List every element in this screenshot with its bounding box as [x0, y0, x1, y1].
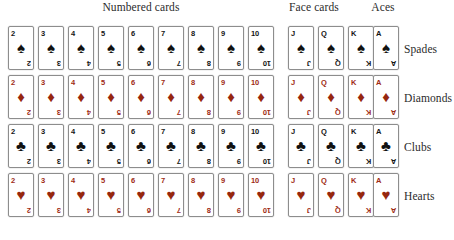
card-10-of-clubs[interactable]: 10♣10: [248, 124, 274, 168]
card-2-of-spades[interactable]: 2♠2: [8, 26, 34, 70]
card-5-of-clubs[interactable]: 5♣5: [98, 124, 124, 168]
card-9-of-diamonds[interactable]: 9♦9: [218, 75, 244, 119]
card-5-of-spades[interactable]: 5♠5: [98, 26, 124, 70]
card-rank-bottom-right: 4: [87, 108, 91, 116]
club-suit-icon: ♣: [226, 139, 236, 154]
club-suit-icon: ♣: [296, 139, 306, 154]
card-9-of-spades[interactable]: 9♠9: [218, 26, 244, 70]
suit-row-clubs: 2♣23♣34♣45♣56♣67♣78♣89♣910♣10J♣JQ♣QK♣KA♣…: [0, 124, 454, 170]
card-rank-bottom-right: 6: [147, 157, 151, 165]
card-3-of-spades[interactable]: 3♠3: [38, 26, 64, 70]
card-8-of-diamonds[interactable]: 8♦8: [188, 75, 214, 119]
card-10-of-hearts[interactable]: 10♥10: [248, 173, 274, 217]
card-rank-bottom-right: J: [307, 59, 311, 67]
card-rank-bottom-right: 2: [27, 206, 31, 214]
card-4-of-clubs[interactable]: 4♣4: [68, 124, 94, 168]
card-rank-bottom-right: J: [307, 157, 311, 165]
card-rank-bottom-right: A: [391, 157, 396, 165]
card-q-of-spades[interactable]: Q♠Q: [318, 26, 344, 70]
card-6-of-diamonds[interactable]: 6♦6: [128, 75, 154, 119]
diamond-suit-icon: ♦: [167, 90, 175, 105]
card-a-of-spades[interactable]: A♠A: [373, 26, 399, 70]
card-k-of-hearts[interactable]: K♥K: [348, 173, 374, 217]
card-k-of-diamonds[interactable]: K♦K: [348, 75, 374, 119]
card-q-of-diamonds[interactable]: Q♦Q: [318, 75, 344, 119]
spade-suit-icon: ♠: [297, 41, 305, 56]
card-rank-bottom-right: K: [366, 206, 371, 214]
card-k-of-spades[interactable]: K♠K: [348, 26, 374, 70]
card-2-of-clubs[interactable]: 2♣2: [8, 124, 34, 168]
card-3-of-clubs[interactable]: 3♣3: [38, 124, 64, 168]
card-rank-bottom-right: 10: [263, 157, 271, 165]
card-rank-bottom-right: 10: [263, 206, 271, 214]
card-rank-top-left: 5: [101, 177, 105, 185]
card-rank-top-left: Q: [321, 79, 327, 87]
card-rank-top-left: J: [291, 128, 295, 136]
card-q-of-hearts[interactable]: Q♥Q: [318, 173, 344, 217]
card-j-of-hearts[interactable]: J♥J: [288, 173, 314, 217]
card-q-of-clubs[interactable]: Q♣Q: [318, 124, 344, 168]
club-suit-icon: ♣: [166, 139, 176, 154]
card-rank-top-left: 10: [251, 30, 259, 38]
card-9-of-clubs[interactable]: 9♣9: [218, 124, 244, 168]
card-4-of-diamonds[interactable]: 4♦4: [68, 75, 94, 119]
card-rank-top-left: 8: [191, 177, 195, 185]
card-rank-top-left: Q: [321, 177, 327, 185]
card-rank-top-left: 7: [161, 177, 165, 185]
card-rank-bottom-right: 9: [237, 108, 241, 116]
card-7-of-spades[interactable]: 7♠7: [158, 26, 184, 70]
card-5-of-hearts[interactable]: 5♥5: [98, 173, 124, 217]
card-rank-top-left: A: [376, 128, 381, 136]
card-rank-bottom-right: 7: [177, 108, 181, 116]
card-rank-bottom-right: 8: [207, 157, 211, 165]
card-rank-top-left: 2: [11, 128, 15, 136]
card-j-of-clubs[interactable]: J♣J: [288, 124, 314, 168]
card-rank-bottom-right: K: [366, 157, 371, 165]
card-6-of-hearts[interactable]: 6♥6: [128, 173, 154, 217]
card-9-of-hearts[interactable]: 9♥9: [218, 173, 244, 217]
spade-suit-icon: ♠: [17, 41, 25, 56]
card-k-of-clubs[interactable]: K♣K: [348, 124, 374, 168]
card-3-of-hearts[interactable]: 3♥3: [38, 173, 64, 217]
card-4-of-hearts[interactable]: 4♥4: [68, 173, 94, 217]
card-rank-bottom-right: 2: [27, 157, 31, 165]
card-a-of-hearts[interactable]: A♥A: [373, 173, 399, 217]
card-5-of-diamonds[interactable]: 5♦5: [98, 75, 124, 119]
card-2-of-diamonds[interactable]: 2♦2: [8, 75, 34, 119]
spade-suit-icon: ♠: [107, 41, 115, 56]
card-a-of-diamonds[interactable]: A♦A: [373, 75, 399, 119]
card-8-of-hearts[interactable]: 8♥8: [188, 173, 214, 217]
card-rank-top-left: 2: [11, 79, 15, 87]
card-rank-top-left: 6: [131, 128, 135, 136]
card-rank-bottom-right: 9: [237, 157, 241, 165]
card-7-of-diamonds[interactable]: 7♦7: [158, 75, 184, 119]
card-7-of-hearts[interactable]: 7♥7: [158, 173, 184, 217]
card-6-of-clubs[interactable]: 6♣6: [128, 124, 154, 168]
club-suit-icon: ♣: [76, 139, 86, 154]
diamond-suit-icon: ♦: [137, 90, 145, 105]
card-10-of-diamonds[interactable]: 10♦10: [248, 75, 274, 119]
card-rank-top-left: 10: [251, 79, 259, 87]
card-8-of-clubs[interactable]: 8♣8: [188, 124, 214, 168]
card-j-of-diamonds[interactable]: J♦J: [288, 75, 314, 119]
card-6-of-spades[interactable]: 6♠6: [128, 26, 154, 70]
card-a-of-clubs[interactable]: A♣A: [373, 124, 399, 168]
card-rank-bottom-right: 10: [263, 59, 271, 67]
card-rank-top-left: 7: [161, 79, 165, 87]
heart-suit-icon: ♥: [327, 188, 336, 203]
heart-suit-icon: ♥: [77, 188, 86, 203]
card-8-of-spades[interactable]: 8♠8: [188, 26, 214, 70]
card-rank-bottom-right: 3: [57, 157, 61, 165]
card-j-of-spades[interactable]: J♠J: [288, 26, 314, 70]
card-3-of-diamonds[interactable]: 3♦3: [38, 75, 64, 119]
spade-suit-icon: ♠: [47, 41, 55, 56]
card-rank-bottom-right: 4: [87, 59, 91, 67]
card-7-of-clubs[interactable]: 7♣7: [158, 124, 184, 168]
card-rank-bottom-right: 6: [147, 108, 151, 116]
card-10-of-spades[interactable]: 10♠10: [248, 26, 274, 70]
club-suit-icon: ♣: [196, 139, 206, 154]
card-2-of-hearts[interactable]: 2♥2: [8, 173, 34, 217]
card-4-of-spades[interactable]: 4♠4: [68, 26, 94, 70]
diamond-suit-icon: ♦: [227, 90, 235, 105]
card-rank-top-left: 9: [221, 128, 225, 136]
